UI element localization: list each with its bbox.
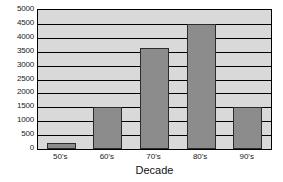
y-axis-tick-label: 3500 [0,47,34,55]
bar [140,48,169,149]
bars-layer [38,10,271,149]
y-axis-tick-label: 1500 [0,102,34,110]
x-axis-tick-label: 90's [223,152,270,162]
bar [93,107,122,149]
bar [47,143,76,149]
x-axis-tick-label: 60's [84,152,131,162]
bar-chart: 5000450040003500300025002000150010005000… [0,0,283,182]
y-axis-tick-label: 4500 [0,19,34,27]
x-axis-tick-label: 70's [130,152,177,162]
bar [233,107,262,149]
bar [187,24,216,149]
y-axis-tick-label: 1000 [0,116,34,124]
y-axis-tick-label: 2000 [0,88,34,96]
x-axis-tick-label: 50's [37,152,84,162]
y-axis-tick-label: 3000 [0,61,34,69]
y-axis-tick-label: 4000 [0,33,34,41]
x-axis-title: Decade [37,164,272,177]
x-axis: 50's60's70's80's90's [37,152,272,164]
y-axis: 5000450040003500300025002000150010005000 [0,4,34,150]
plot-area [37,9,272,150]
y-axis-tick-label: 2500 [0,75,34,83]
y-axis-tick-label: 0 [0,144,34,152]
x-axis-tick-label: 80's [177,152,224,162]
y-axis-tick-label: 5000 [0,5,34,13]
y-axis-tick-label: 500 [0,130,34,138]
